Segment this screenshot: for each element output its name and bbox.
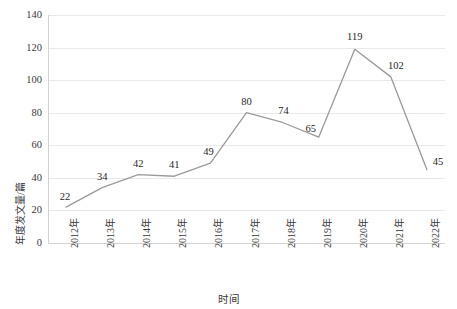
data-label: 80 [241,97,252,108]
data-label: 65 [305,124,316,135]
x-axis-title: 时间 [0,291,457,306]
data-label: 45 [433,157,444,168]
data-label: 41 [169,160,180,171]
data-label: 22 [60,192,71,203]
line-chart: 020406080100120140 年度发文量/篇 2012年2013年201… [0,0,457,309]
data-label: 119 [347,32,362,43]
data-label: 42 [133,159,144,170]
data-label: 102 [388,61,404,72]
data-label: 34 [97,172,108,183]
data-label: 74 [278,106,289,117]
series-polyline [66,49,427,207]
series-line [0,0,457,309]
data-label: 49 [203,147,214,158]
